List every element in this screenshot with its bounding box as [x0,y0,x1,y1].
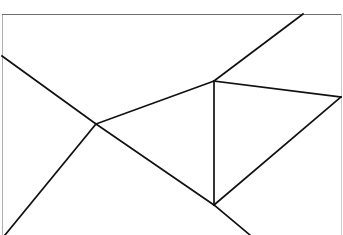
segment-lower-junction-to-bottom-right [214,205,250,235]
segment-left-edge-to-center [2,56,96,124]
segment-center-to-upper-junction [96,81,214,124]
segment-lower-junction-to-right-vertex [214,97,341,205]
segment-center-to-lower-junction [96,124,214,205]
frame-group [2,14,341,235]
segment-upper-junction-to-top-edge [214,14,303,81]
figure-canvas [0,0,343,235]
line-figure-svg [0,0,343,235]
segment-upper-junction-to-right-vertex [214,81,341,97]
drawing-group [2,14,341,235]
segment-center-to-bottom-left [5,124,96,235]
